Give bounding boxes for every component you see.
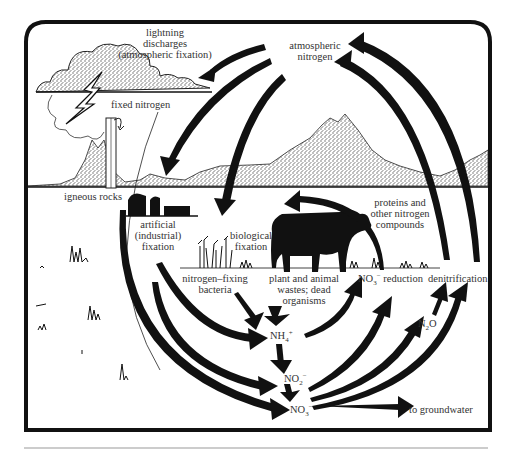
label-lightning: lightning discharges (atmospheric fixati…: [105, 27, 225, 60]
label-proteins: proteins and other nitrogen compounds: [362, 197, 438, 230]
arrow-wastes-to-nh4: [264, 306, 290, 326]
label-fixed-nitrogen: fixed nitrogen: [111, 99, 170, 110]
label-no3-reduction: NO3− reduction: [358, 273, 423, 284]
label-igneous-rocks: igneous rocks: [64, 191, 122, 202]
label-nitrogen-fixing-bacteria: nitrogen–fixing bacteria: [175, 273, 255, 295]
label-nh4: NH4+: [270, 330, 293, 341]
arrow-bacteria-to-nh4: [234, 292, 256, 320]
label-n2o: N2O: [418, 318, 437, 329]
arrow-no2-to-no3: [280, 384, 300, 402]
arrow-no3-to-n2o: [310, 330, 416, 402]
arrow-no3-to-reduction: [308, 310, 386, 392]
label-no2: NO2−: [284, 373, 307, 384]
label-denitrification: denitrification: [428, 273, 487, 284]
label-atmospheric-nitrogen: atmospheric nitrogen: [270, 40, 360, 62]
label-no3: NO3−: [290, 404, 313, 415]
factory-icon: [126, 194, 198, 216]
label-groundwater: to groundwater: [409, 404, 473, 415]
nitrogen-cycle-diagram: lightning discharges (atmospheric fixati…: [0, 0, 511, 452]
label-biological-fixation: biological fixation: [226, 230, 276, 252]
formula-no3: NO3−: [358, 273, 381, 284]
label-artificial-fixation: artificial (industrial) fixation: [128, 219, 188, 252]
label-wastes: plant and animal wastes; dead organisms: [262, 273, 346, 306]
